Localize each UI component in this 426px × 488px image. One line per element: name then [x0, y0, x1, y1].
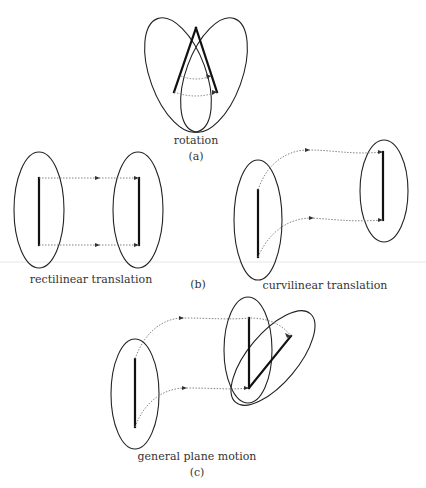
arrow-head — [309, 216, 314, 220]
caption-general-plane-motion: general plane motion — [138, 450, 257, 463]
caption-rotation: rotation — [174, 134, 219, 147]
caption-rectilinear-translation: rectilinear translation — [30, 273, 153, 286]
tag-a: (a) — [188, 150, 203, 163]
tag-b: (b) — [190, 278, 206, 291]
body-outline-right — [167, 9, 261, 141]
arrow-head — [182, 386, 187, 390]
tag-c: (c) — [190, 466, 205, 479]
bar-end — [249, 336, 291, 388]
trajectory-bottom — [135, 388, 249, 427]
curvilinear-translation-figure — [234, 140, 408, 280]
rotation-figure — [131, 9, 261, 141]
bar-position-2 — [196, 28, 217, 92]
arrow-head — [305, 148, 310, 152]
bar-position-1 — [174, 28, 196, 92]
trajectory-top — [135, 318, 291, 359]
motion-types-diagram — [0, 0, 426, 488]
rectilinear-translation-figure — [14, 152, 163, 268]
arrow-head — [95, 243, 100, 247]
general-plane-motion-figure — [111, 297, 329, 449]
caption-curvilinear-translation: curvilinear translation — [263, 279, 388, 292]
trajectory-bottom — [258, 218, 383, 257]
arrow-head — [95, 176, 100, 180]
arrow-head — [179, 316, 184, 320]
